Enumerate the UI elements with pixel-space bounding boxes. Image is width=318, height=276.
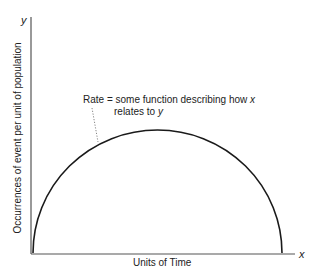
rate-annotation: Rate = some function describing how x re…	[83, 94, 255, 118]
annotation-line-2: relates to y	[83, 106, 255, 118]
annotation-x-var: x	[250, 94, 255, 105]
y-axis-variable-label: y	[21, 14, 27, 26]
rate-curve-diagram	[0, 0, 318, 276]
annotation-line-1: Rate = some function describing how x	[83, 94, 255, 105]
annotation-y-var: y	[158, 106, 163, 117]
rate-curve	[33, 130, 282, 253]
annotation-text: relates to	[114, 106, 158, 117]
x-axis-variable-label: x	[299, 248, 305, 260]
y-axis-title: Occurrences of event per unit of populat…	[12, 42, 23, 233]
x-axis-title: Units of Time	[133, 257, 191, 269]
annotation-text: Rate = some function describing how	[83, 94, 250, 105]
